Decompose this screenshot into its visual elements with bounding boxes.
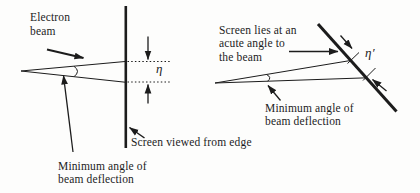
eta-prime-upper-arrow: [341, 36, 353, 49]
electron-beam-pointer-arrow: [47, 50, 84, 59]
screen-angle-label-line3: the beam: [219, 51, 297, 65]
right-deflection-pointer-arrow: [268, 86, 281, 101]
screen-angle-label-line1: Screen lies at an: [219, 24, 297, 38]
left-deflection-label-line1: Minimum angle of: [58, 160, 147, 174]
right-screen-tilted-line: [318, 24, 397, 112]
right-deflection-label-line2: beam deflection: [265, 115, 354, 129]
screen-viewed-from-edge-label: Screen viewed from edge: [131, 136, 252, 150]
left-deflection-label: Minimum angle of beam deflection: [58, 160, 147, 187]
right-angle-arc: [267, 75, 270, 82]
electron-beam-label-line2: beam: [30, 25, 70, 39]
left-deflection-pointer-arrow: [64, 76, 74, 153]
eta-prime-symbol: η′: [365, 45, 375, 61]
electron-beam-label-line1: Electron: [30, 11, 70, 25]
screen-angle-label: Screen lies at an acute angle to the bea…: [219, 24, 297, 65]
left-beam-lower-line: [21, 71, 125, 82]
right-beam-lower-line: [215, 78, 367, 83]
left-beam-upper-line: [21, 62, 125, 72]
right-deflection-label: Minimum angle of beam deflection: [265, 102, 354, 129]
figure-canvas: Electron beam η Screen viewed from edge …: [0, 0, 420, 193]
left-angle-arc: [74, 66, 78, 76]
electron-beam-label: Electron beam: [30, 11, 70, 38]
right-deflection-label-line1: Minimum angle of: [265, 102, 354, 116]
screen-angle-label-line2: acute angle to: [219, 37, 297, 51]
eta-symbol: η: [156, 61, 163, 77]
left-deflection-label-line2: beam deflection: [58, 173, 147, 187]
